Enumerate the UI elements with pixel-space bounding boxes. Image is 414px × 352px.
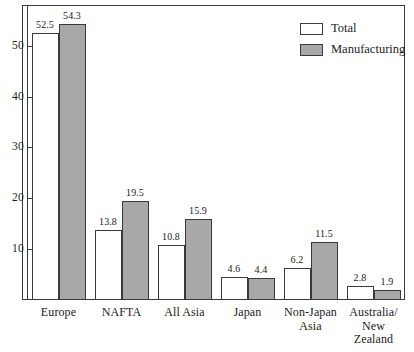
bar-value-label: 4.4 <box>242 265 281 275</box>
x-axis-category-label: Non-Japan Asia <box>279 306 342 333</box>
legend-item-total: Total <box>300 20 405 37</box>
bar-total <box>32 33 59 300</box>
bar-manufacturing <box>248 278 275 300</box>
legend-swatch-total-icon <box>300 23 323 35</box>
bar-total <box>158 245 185 300</box>
bar-value-label: 11.5 <box>305 229 344 239</box>
x-axis-category-label: Europe <box>27 306 90 320</box>
bar-total <box>284 268 311 300</box>
bar-value-label: 54.3 <box>53 11 92 21</box>
bar-manufacturing <box>311 242 338 300</box>
bar-value-label: 19.5 <box>116 188 155 198</box>
bar-value-label: 1.9 <box>368 277 407 287</box>
legend: Total Manufacturing <box>295 16 411 62</box>
bar-total <box>221 277 248 300</box>
bar-total <box>95 230 122 300</box>
legend-item-manufacturing: Manufacturing <box>300 41 405 58</box>
bar-manufacturing <box>374 290 401 300</box>
legend-label-total: Total <box>331 22 357 35</box>
bar-manufacturing <box>122 201 149 300</box>
x-axis-category-label: Australia/ New Zealand <box>342 306 405 347</box>
x-axis-category-label: All Asia <box>153 306 216 320</box>
legend-label-manufacturing: Manufacturing <box>331 43 405 56</box>
legend-swatch-manufacturing-icon <box>300 44 323 56</box>
bar-chart: 1020304050 52.554.313.819.510.815.94.64.… <box>0 0 414 352</box>
x-axis-category-label: Japan <box>216 306 279 320</box>
x-axis-category-label: NAFTA <box>90 306 153 320</box>
bar-manufacturing <box>185 219 212 300</box>
bar-total <box>347 286 374 300</box>
bar-manufacturing <box>59 24 86 300</box>
bar-value-label: 15.9 <box>179 206 218 216</box>
